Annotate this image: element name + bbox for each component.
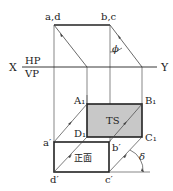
label-a-prime: a′ bbox=[43, 137, 52, 148]
projection-diagram: ϕ X Y HP VP TS 正面 δ a,d b,c A₁ B₁ C₁ D₁ … bbox=[0, 0, 173, 191]
label-D1: D₁ bbox=[74, 128, 86, 139]
ts-label: TS bbox=[106, 115, 120, 126]
label-C1: C₁ bbox=[145, 132, 157, 143]
label-d-prime: d′ bbox=[50, 174, 59, 185]
label-a-d: a,d bbox=[45, 11, 61, 22]
vp-label: VP bbox=[24, 68, 39, 79]
label-c-prime: c′ bbox=[105, 174, 114, 185]
label-A1: A₁ bbox=[73, 95, 85, 106]
label-b-c: b,c bbox=[101, 11, 117, 22]
y-label: Y bbox=[160, 61, 169, 74]
diagonal-ad bbox=[54, 25, 87, 67]
phi-label: ϕ bbox=[112, 43, 119, 54]
x-label: X bbox=[9, 61, 17, 74]
arrow-icon bbox=[68, 121, 72, 125]
arrow-icon bbox=[141, 168, 144, 172]
delta-label: δ bbox=[139, 151, 145, 162]
front-label: 正面 bbox=[74, 153, 92, 163]
hp-label: HP bbox=[25, 55, 41, 66]
label-b-prime: b′ bbox=[112, 142, 121, 153]
label-B1: B₁ bbox=[145, 95, 156, 106]
